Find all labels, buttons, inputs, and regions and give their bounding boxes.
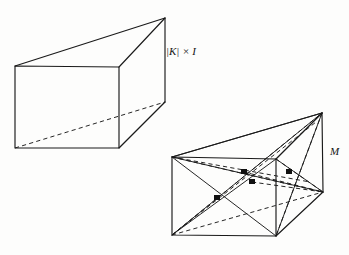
left-prism-bottom-right-receding-edge <box>119 102 165 148</box>
figure-canvas: |K| × I M <box>0 0 349 255</box>
right-prism-back-vertical-edge <box>322 113 323 192</box>
label-right-shape: M <box>330 146 339 157</box>
label-left-shape-text: |K| × I <box>166 45 196 57</box>
marked-point-p1 <box>241 169 247 174</box>
left-prism-front-face-edges <box>15 66 119 148</box>
label-right-shape-text: M <box>330 145 339 157</box>
right-prism-bottom-right-receding-edge <box>276 192 323 236</box>
geometric-diagram-svg <box>0 0 349 255</box>
marked-point-p2 <box>249 179 255 184</box>
label-left-shape: |K| × I <box>166 46 196 57</box>
right-prism-diagonal-front-top-right-to-back-bottom <box>276 159 323 192</box>
right-prism-group <box>172 113 323 236</box>
left-prism-group <box>15 18 165 148</box>
marked-point-p3 <box>214 195 220 200</box>
marked-point-p4 <box>286 169 292 174</box>
